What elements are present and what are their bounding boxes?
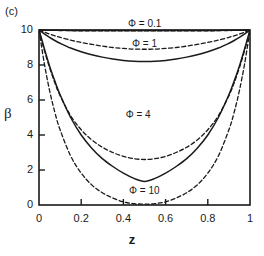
x-tick-label: 0.2 (61, 212, 101, 224)
curve-annotation: Φ = 1 (132, 38, 157, 49)
y-tick-label: 6 (3, 93, 33, 105)
y-axis-label: β (4, 105, 12, 122)
x-tick-label: 0.6 (146, 212, 186, 224)
x-tick-label: 0.8 (188, 212, 228, 224)
y-tick-label: 10 (3, 23, 33, 35)
x-tick-label: 1 (230, 212, 264, 224)
axis-ticks (39, 65, 208, 205)
y-tick-label: 0 (3, 198, 33, 210)
figure-panel-c: (c) β z 024681000.20.40.60.81 Φ = 0.1Φ =… (0, 0, 264, 256)
curve-annotation: Φ = 10 (129, 185, 160, 196)
curve-annotation: Φ = 4 (126, 109, 151, 120)
x-axis-label: z (0, 232, 264, 247)
curve-solid-phi-4 (39, 30, 250, 181)
y-tick-label: 4 (3, 128, 33, 140)
panel-label: (c) (5, 5, 18, 17)
y-tick-label: 8 (3, 58, 33, 70)
x-tick-label: 0.4 (103, 212, 143, 224)
x-tick-label: 0 (19, 212, 59, 224)
y-tick-label: 2 (3, 163, 33, 175)
curve-annotation: Φ = 0.1 (128, 18, 161, 29)
